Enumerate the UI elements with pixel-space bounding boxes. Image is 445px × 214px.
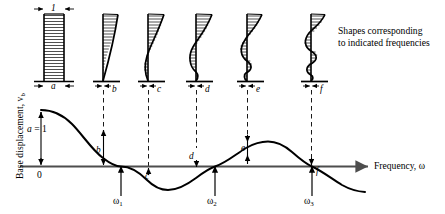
shape-label-f: f <box>320 85 323 94</box>
shape-label-b: b <box>112 85 117 94</box>
origin-label: 0 <box>37 170 42 180</box>
omega2-label: ω2 <box>207 196 217 208</box>
shape-a <box>34 9 74 86</box>
omega-tick-arrows <box>121 166 312 196</box>
figure-root: 1 a b c d e f Shapes corresponding to in… <box>0 0 445 214</box>
curve-point-label-d: d <box>189 152 194 161</box>
omega1-subscript: 1 <box>119 200 122 207</box>
width-dimension-label: 1 <box>51 4 56 14</box>
omega3-subscript: 3 <box>310 200 313 207</box>
y-axis-label-text: Base displacement, v <box>15 97 25 179</box>
response-curve <box>41 110 365 192</box>
shape-label-c: c <box>157 85 161 94</box>
amplitude-a-value: = 1 <box>32 123 47 134</box>
leader-lines <box>104 90 312 168</box>
shape-label-e: e <box>256 85 260 94</box>
curve-point-label-e: e <box>241 144 245 153</box>
curve-point-label-f: f <box>316 167 319 176</box>
shape-f <box>301 14 328 86</box>
x-axis-label: Frequency, ω <box>374 161 425 171</box>
shape-e <box>237 14 264 86</box>
x-axis-symbol: ω <box>419 160 425 171</box>
shape-b <box>93 14 120 86</box>
curve-point-label-c: c <box>145 172 149 181</box>
y-axis-label: Base displacement, vb <box>15 93 26 179</box>
shape-d <box>186 14 213 86</box>
omega2-subscript: 2 <box>213 200 216 207</box>
x-axis-label-text: Frequency, <box>374 160 419 171</box>
shapes-note-line2: to indicated frequencies <box>338 38 430 48</box>
shapes-note-line1: Shapes corresponding <box>338 26 422 36</box>
y-axis-label-subscript: b <box>19 93 26 97</box>
omega3-label: ω3 <box>304 196 314 208</box>
shape-c <box>138 14 165 86</box>
amplitude-a-label: a = 1 <box>27 124 47 134</box>
shape-label-d: d <box>205 85 210 94</box>
shape-label-a: a <box>51 82 56 91</box>
omega1-label: ω1 <box>113 196 123 208</box>
curve-point-label-b: b <box>96 146 101 155</box>
